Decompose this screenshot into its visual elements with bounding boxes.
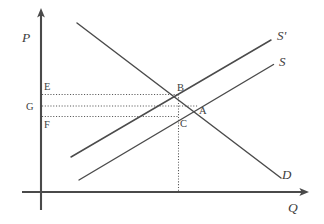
supply-shifted-curve: [71, 40, 271, 157]
quantity-axis-label: Q: [288, 200, 298, 215]
point-a-label: A: [199, 105, 207, 116]
figure-canvas: P Q S' S D B A C E G F: [0, 0, 324, 224]
point-b-label: B: [177, 82, 184, 93]
guide-lines-group: [42, 95, 198, 192]
point-c-label: C: [180, 118, 187, 129]
price-axis-label: P: [21, 30, 30, 45]
curves-group: [71, 23, 281, 180]
supply-demand-figure: P Q S' S D B A C E G F: [0, 0, 324, 224]
price-level-e-label: E: [44, 81, 50, 92]
price-level-f-label: F: [44, 119, 50, 130]
demand-curve-label: D: [281, 167, 292, 182]
price-level-g-label: G: [26, 101, 34, 112]
demand-curve: [77, 23, 281, 178]
supply-shifted-curve-label: S': [277, 28, 287, 43]
axes-group: [22, 8, 309, 210]
supply-curve-label: S: [279, 54, 286, 69]
